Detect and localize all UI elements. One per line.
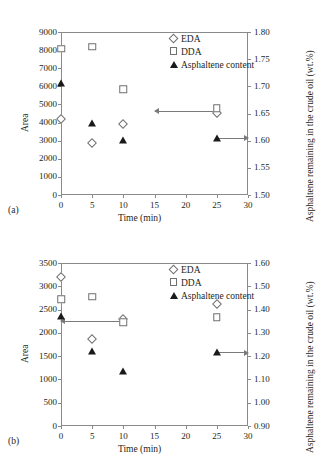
x-tick-0-0 [61,195,62,198]
y-tick-label-0-8: 8000 [19,46,57,55]
y2-tick-1-2 [248,379,251,380]
y-tick-1-1 [58,403,61,404]
x-tick-label-0-0: 0 [47,201,75,210]
y-tick-label-1-3: 1500 [19,352,57,361]
x-tick-0-6 [248,195,249,198]
x-tick-1-4 [186,426,187,429]
y2-tick-label-1-5: 1.40 [254,305,284,314]
y-tick-0-5 [58,104,61,105]
diamond-open-icon [168,34,179,44]
y2-tick-label-1-3: 1.20 [254,352,284,361]
y-tick-label-0-6: 6000 [19,82,57,91]
y2-tick-label-1-7: 1.60 [254,259,284,268]
data-point-0-1-3 [213,104,221,112]
data-point-1-1-3 [213,313,221,321]
y-tick-1-7 [58,263,61,264]
x-tick-1-6 [248,426,249,429]
legend-marker-shape [170,47,178,55]
y2-tick-label-1-2: 1.10 [254,375,284,384]
data-point-0-1-0 [57,45,65,53]
legend-marker-shape [169,33,179,43]
y-tick-label-0-1: 1000 [19,172,57,181]
y2-tick-0-6 [248,32,251,33]
y-tick-label-1-5: 2500 [19,305,57,314]
y2-tick-label-0-5: 1.75 [254,55,284,64]
annotation-arrow-1-1 [217,352,248,353]
legend-b: EDADDAAsphaltene content [168,263,254,302]
y2-tick-label-0-0: 1.50 [254,191,284,200]
annotation-arrow-1-0 [61,321,123,322]
y-tick-0-6 [58,86,61,87]
y-tick-label-1-7: 3500 [19,259,57,268]
y2-tick-1-3 [248,356,251,357]
y-tick-0-1 [58,177,61,178]
x-tick-1-2 [123,426,124,429]
legend-item-0-2: Asphaltene content [168,58,254,71]
y2-tick-label-0-2: 1.60 [254,136,284,145]
y-tick-label-0-0: 0 [19,191,57,200]
y2-tick-label-0-6: 1.80 [254,28,284,37]
x-tick-label-0-1: 5 [78,201,106,210]
x-tick-1-0 [61,426,62,429]
legend-item-label: Asphaltene content [181,60,254,70]
data-point-1-2-3 [213,349,221,356]
x-tick-0-3 [155,195,156,198]
y-tick-0-2 [58,159,61,160]
panel-label-a: (a) [8,205,19,215]
y-tick-label-0-5: 5000 [19,100,57,109]
chart-panel-b: (b) Area Time (min) Asphaltene remaining… [0,231,332,462]
data-point-0-2-2 [119,137,127,144]
y-tick-1-4 [58,333,61,334]
y-tick-1-6 [58,286,61,287]
x-tick-label-0-3: 15 [141,201,169,210]
triangle-filled-icon [168,291,179,301]
y-tick-label-0-2: 2000 [19,154,57,163]
y2-tick-1-1 [248,403,251,404]
x-tick-1-1 [92,426,93,429]
data-point-0-1-1 [88,43,96,51]
y2-tick-label-0-4: 1.70 [254,82,284,91]
y2-tick-1-4 [248,333,251,334]
square-open-icon [168,278,179,288]
y-tick-0-3 [58,141,61,142]
legend-a: EDADDAAsphaltene content [168,32,254,71]
data-point-1-1-2 [120,318,128,326]
y-tick-label-0-7: 7000 [19,64,57,73]
x-tick-label-0-4: 20 [172,201,200,210]
y2-tick-label-0-3: 1.65 [254,109,284,118]
y2-tick-0-5 [248,59,251,60]
arrow-head-icon [244,350,249,356]
x-tick-label-1-3: 15 [141,432,169,441]
data-point-1-1-1 [88,293,96,301]
data-point-0-2-3 [213,134,221,141]
y-tick-label-1-1: 500 [19,398,57,407]
y2-tick-0-3 [248,114,251,115]
x-tick-0-1 [92,195,93,198]
x-tick-0-4 [186,195,187,198]
x-tick-label-1-0: 0 [47,432,75,441]
y-tick-0-7 [58,68,61,69]
x-axis-title-b: Time (min) [118,444,161,454]
y-tick-label-1-4: 2000 [19,328,57,337]
data-point-1-2-1 [88,348,96,355]
data-point-1-1-0 [57,296,65,304]
data-point-0-1-2 [120,86,128,94]
y-tick-label-1-0: 0 [19,422,57,431]
y2-tick-0-1 [248,168,251,169]
diamond-open-icon [168,265,179,275]
legend-item-1-2: Asphaltene content [168,289,254,302]
y-tick-1-2 [58,379,61,380]
x-tick-label-1-1: 5 [78,432,106,441]
y2-tick-1-5 [248,310,251,311]
chart-panel-a: (a) Area Time (min) Asphaltene remaining… [0,0,332,231]
legend-marker-shape [170,278,178,286]
panel-label-b: (b) [8,436,19,446]
x-tick-0-2 [123,195,124,198]
y-tick-label-1-6: 3000 [19,282,57,291]
y-tick-label-0-9: 9000 [19,28,57,37]
y2-tick-label-1-1: 1.00 [254,398,284,407]
y2-axis-title-a: Asphaltene remaining in the crude oil (w… [305,50,315,222]
x-tick-label-0-5: 25 [203,201,231,210]
legend-item-label: DDA [181,47,202,57]
y-tick-1-5 [58,310,61,311]
